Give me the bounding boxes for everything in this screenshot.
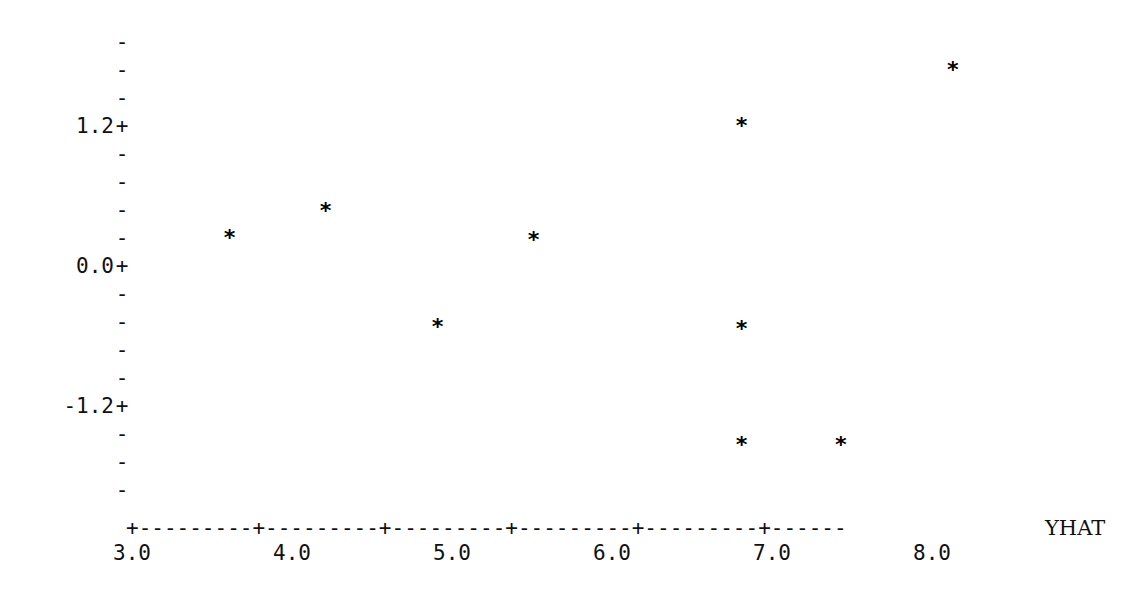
y-axis-tick-dash-icon: - bbox=[114, 422, 130, 446]
y-axis-tick-plus-icon: + bbox=[114, 394, 130, 418]
y-axis-tick-dash-icon: - bbox=[114, 198, 130, 222]
y-axis-minor-tick-row: - bbox=[0, 58, 130, 82]
y-axis-tick-dash-icon: - bbox=[114, 338, 130, 362]
y-axis-minor-tick-row: - bbox=[0, 422, 130, 446]
x-axis-tick-label: 3.0 bbox=[113, 541, 151, 565]
y-axis-tick-dash-icon: - bbox=[114, 282, 130, 306]
data-point-marker: * bbox=[734, 115, 750, 137]
data-point-marker: * bbox=[222, 227, 238, 249]
data-point-marker: * bbox=[318, 200, 334, 222]
y-axis-tick-dash-icon: - bbox=[114, 310, 130, 334]
plot-area: ---1.2+----0.0+-----1.2+---+---------+--… bbox=[0, 0, 1141, 605]
data-point-marker: * bbox=[734, 434, 750, 456]
y-axis-minor-tick-row: - bbox=[0, 450, 130, 474]
y-axis-tick-dash-icon: - bbox=[114, 170, 130, 194]
y-axis-tick-dash-icon: - bbox=[114, 366, 130, 390]
y-axis-minor-tick-row: - bbox=[0, 338, 130, 362]
y-axis-minor-tick-row: - bbox=[0, 310, 130, 334]
y-axis-major-tick-row: 1.2+ bbox=[0, 114, 130, 138]
y-axis-minor-tick-row: - bbox=[0, 282, 130, 306]
x-axis-tick-label: 8.0 bbox=[913, 541, 951, 565]
ascii-scatter-plot-screen: ---1.2+----0.0+-----1.2+---+---------+--… bbox=[0, 0, 1141, 605]
x-axis-tick-label: 5.0 bbox=[433, 541, 471, 565]
x-axis-tick-label: 4.0 bbox=[273, 541, 311, 565]
x-axis-tick-label: 6.0 bbox=[593, 541, 631, 565]
y-axis-minor-tick-row: - bbox=[0, 198, 130, 222]
data-point-marker: * bbox=[734, 318, 750, 340]
y-axis-minor-tick-row: - bbox=[0, 30, 130, 54]
y-axis-tick-dash-icon: - bbox=[114, 226, 130, 250]
y-axis-tick-label: 1.2 bbox=[76, 114, 114, 138]
y-axis-tick-label: 0.0 bbox=[76, 254, 114, 278]
y-axis-tick-dash-icon: - bbox=[114, 478, 130, 502]
y-axis-minor-tick-row: - bbox=[0, 366, 130, 390]
y-axis-major-tick-row: -1.2+ bbox=[0, 394, 130, 418]
data-point-marker: * bbox=[945, 59, 961, 81]
x-axis-tick-label: 7.0 bbox=[753, 541, 791, 565]
x-axis-line: +---------+---------+---------+---------… bbox=[126, 516, 847, 540]
y-axis-minor-tick-row: - bbox=[0, 478, 130, 502]
data-point-marker: * bbox=[526, 229, 542, 251]
y-axis-minor-tick-row: - bbox=[0, 226, 130, 250]
x-axis-label: YHAT bbox=[1045, 516, 1105, 540]
y-axis-tick-dash-icon: - bbox=[114, 30, 130, 54]
y-axis-tick-plus-icon: + bbox=[114, 114, 130, 138]
y-axis-tick-label: -1.2 bbox=[63, 394, 114, 418]
y-axis-major-tick-row: 0.0+ bbox=[0, 254, 130, 278]
y-axis-tick-dash-icon: - bbox=[114, 450, 130, 474]
y-axis-tick-dash-icon: - bbox=[114, 142, 130, 166]
y-axis-tick-dash-icon: - bbox=[114, 86, 130, 110]
data-point-marker: * bbox=[833, 434, 849, 456]
y-axis-minor-tick-row: - bbox=[0, 142, 130, 166]
y-axis-minor-tick-row: - bbox=[0, 170, 130, 194]
data-point-marker: * bbox=[430, 316, 446, 338]
y-axis-minor-tick-row: - bbox=[0, 86, 130, 110]
y-axis-tick-plus-icon: + bbox=[114, 254, 130, 278]
y-axis-tick-dash-icon: - bbox=[114, 58, 130, 82]
